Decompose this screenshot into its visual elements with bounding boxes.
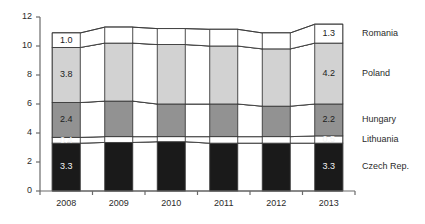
- band-area-poland: [52, 43, 343, 106]
- value-label-2013-hungary: 2.2: [322, 114, 335, 124]
- y-tick-label: 6: [27, 98, 32, 108]
- y-tick-label: 0: [27, 185, 32, 195]
- bar-segment-2009-lithuania: [105, 137, 133, 143]
- bar-segment-2009-poland: [105, 43, 133, 101]
- y-tick-label: 10: [22, 40, 32, 50]
- y-tick-label: 2: [27, 156, 32, 166]
- bar-segment-2009-hungary: [105, 101, 133, 137]
- bar-group-2011: [210, 29, 238, 191]
- legend-label-lithuania: Lithuania: [362, 134, 399, 144]
- bar-segment-2009-czech-rep: [105, 142, 133, 191]
- value-label-2008-czech-rep: 3.3: [60, 161, 73, 171]
- bar-segment-2011-hungary: [210, 104, 238, 137]
- bar-segment-2012-poland: [262, 49, 290, 106]
- value-label-2013-poland: 4.2: [322, 68, 335, 78]
- bar-segment-2010-romania: [157, 29, 185, 45]
- x-tick-label-2012: 2012: [266, 198, 286, 208]
- legend-label-czech-rep: Czech Rep.: [362, 161, 409, 171]
- value-label-2008-poland: 3.8: [60, 69, 73, 79]
- x-tick-label-2013: 2013: [319, 198, 339, 208]
- legend-layer: RomaniaPolandHungaryLithuaniaCzech Rep.: [362, 28, 409, 171]
- bar-segment-2010-czech-rep: [157, 142, 185, 191]
- bar-segment-2011-czech-rep: [210, 143, 238, 191]
- x-tick-label-2008: 2008: [56, 198, 76, 208]
- bar-segment-2010-poland: [157, 45, 185, 104]
- bar-group-2010: [157, 29, 185, 191]
- value-label-2008-lithuania: 0.4: [60, 135, 73, 145]
- bar-segment-2012-lithuania: [262, 137, 290, 144]
- x-tick-label-2009: 2009: [109, 198, 129, 208]
- y-tick-label: 4: [27, 127, 32, 137]
- bar-segment-2010-hungary: [157, 104, 185, 137]
- bar-segment-2012-romania: [262, 33, 290, 49]
- value-label-2008-romania: 1.0: [60, 35, 73, 45]
- bar-segment-2011-romania: [210, 29, 238, 46]
- band-area-hungary: [52, 101, 343, 137]
- legend-label-romania: Romania: [362, 28, 398, 38]
- legend-label-poland: Poland: [362, 68, 390, 78]
- bar-segment-2012-czech-rep: [262, 143, 290, 191]
- bar-group-2009: [105, 27, 133, 191]
- chart-canvas: 024681012200820092010201120122013 3.30.4…: [0, 0, 425, 224]
- y-tick-label: 12: [22, 11, 32, 21]
- bar-segment-2012-hungary: [262, 106, 290, 136]
- bar-segment-2011-lithuania: [210, 137, 238, 144]
- x-tick-label-2011: 2011: [214, 198, 233, 208]
- band-areas-layer: [52, 24, 343, 191]
- y-tick-label: 8: [27, 69, 32, 79]
- bar-group-2012: [262, 33, 290, 191]
- x-tick-label-2010: 2010: [161, 198, 181, 208]
- stacked-bar-chart: 024681012200820092010201120122013 3.30.4…: [0, 0, 425, 224]
- bar-segment-2009-romania: [105, 27, 133, 43]
- bar-segment-2011-poland: [210, 46, 238, 104]
- value-label-2008-hungary: 2.4: [60, 114, 73, 124]
- value-label-2013-czech-rep: 3.3: [322, 161, 335, 171]
- band-area-czech-rep: [52, 142, 343, 191]
- bar-segment-2010-lithuania: [157, 137, 185, 142]
- legend-label-hungary: Hungary: [362, 114, 397, 124]
- value-label-2013-romania: 1.3: [322, 28, 335, 38]
- value-label-2013-lithuania: 0.5: [322, 134, 335, 144]
